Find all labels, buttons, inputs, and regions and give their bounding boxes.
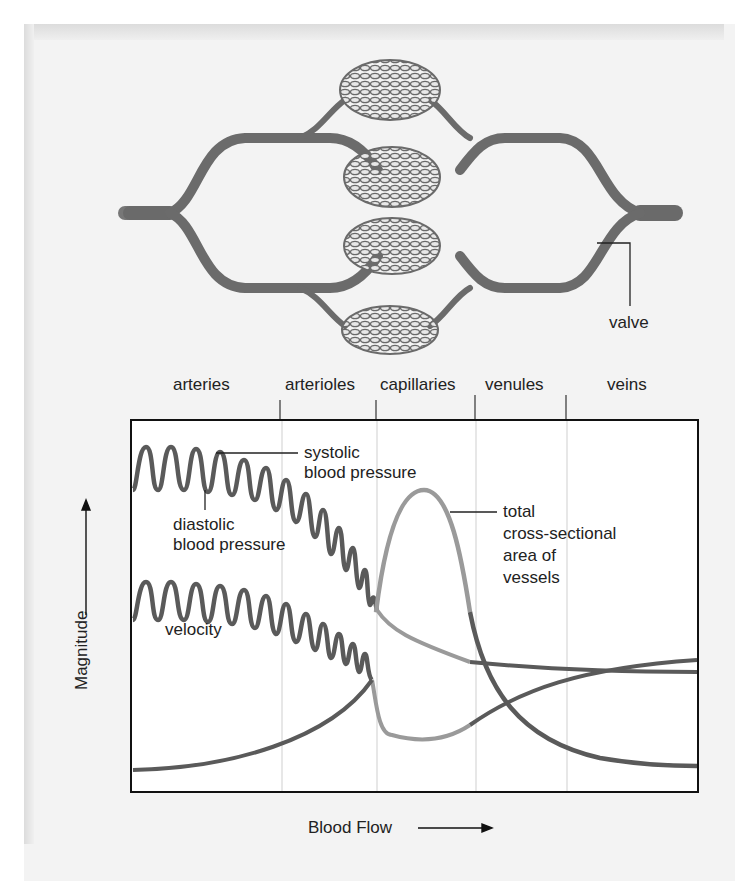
y-axis-label: Magnitude xyxy=(72,611,92,690)
diastolic-label-2: blood pressure xyxy=(173,535,285,555)
velocity-label: velocity xyxy=(165,620,222,640)
systolic-label-2: blood pressure xyxy=(304,463,416,483)
capillary-beds xyxy=(340,60,440,354)
area-label-4: vessels xyxy=(503,568,560,588)
x-axis-label: Blood Flow xyxy=(308,818,392,838)
region-capillaries: capillaries xyxy=(380,375,456,395)
region-arteries: arteries xyxy=(173,375,230,395)
region-venules: venules xyxy=(485,375,544,395)
region-dividers xyxy=(280,395,566,420)
area-label-3: area of xyxy=(503,546,556,566)
systolic-label-1: systolic xyxy=(304,443,360,463)
valve-label: valve xyxy=(609,313,649,333)
region-veins: veins xyxy=(607,375,647,395)
vessel-network xyxy=(125,100,675,326)
diagram-graphics xyxy=(0,0,735,881)
region-arterioles: arterioles xyxy=(285,375,355,395)
diastolic-label-1: diastolic xyxy=(173,515,234,535)
area-label-1: total xyxy=(503,502,535,522)
area-label-2: cross-sectional xyxy=(503,524,616,544)
